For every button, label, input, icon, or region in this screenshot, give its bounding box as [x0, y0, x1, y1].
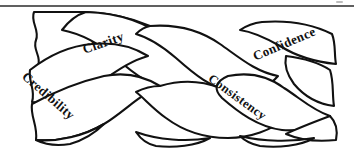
paper-smudge-mark — [336, 1, 343, 3]
braid-illustration — [0, 0, 354, 153]
braid-figure: Credibility Clarity Consistency Confiden… — [0, 0, 354, 153]
